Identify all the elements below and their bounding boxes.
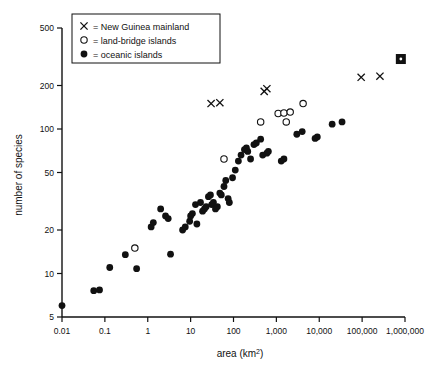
y-tick-label: 10 <box>45 269 55 279</box>
point-oceanic-island <box>193 221 200 228</box>
point-new-guinea-whole-island <box>396 54 406 64</box>
point-oceanic-island <box>214 203 221 210</box>
series-new-guinea-mainland <box>207 73 383 108</box>
legend-item-filled: = oceanic islands <box>81 50 163 60</box>
x-tick-label: 10,000 <box>306 326 332 336</box>
point-oceanic-island <box>281 156 288 163</box>
point-oceanic-island <box>221 183 228 190</box>
point-oceanic-island <box>167 251 174 258</box>
point-land-bridge-island <box>300 100 306 106</box>
point-oceanic-island <box>189 210 196 217</box>
point-oceanic-island <box>106 264 113 271</box>
x-axis: 0.010.11101001,00010,000100,0001,000,000 <box>54 317 424 336</box>
y-tick-label: 20 <box>45 225 55 235</box>
point-oceanic-island <box>90 287 97 294</box>
legend-label: = oceanic islands <box>93 50 163 60</box>
series-land-bridge-islands <box>132 100 307 251</box>
x-axis-title: area (km2) <box>217 348 264 360</box>
series-oceanic-islands <box>59 118 346 308</box>
point-oceanic-island <box>218 191 225 198</box>
x-tick-label: 1,000,000 <box>386 326 424 336</box>
point-new-guinea-mainland <box>263 85 270 92</box>
point-oceanic-island <box>96 287 103 294</box>
point-oceanic-island <box>339 118 346 125</box>
point-oceanic-island <box>257 136 264 143</box>
point-oceanic-island <box>226 199 233 206</box>
x-tick-label: 100,000 <box>347 326 378 336</box>
point-oceanic-island <box>165 215 172 222</box>
point-oceanic-island <box>299 128 306 135</box>
x-tick-label: 0.01 <box>54 326 71 336</box>
y-axis: 5102050100200500 <box>40 23 62 322</box>
point-oceanic-island <box>150 219 157 226</box>
x-axis-title-close: ) <box>260 348 263 359</box>
point-land-bridge-island <box>283 119 289 125</box>
x-tick-label: 10 <box>186 326 196 336</box>
point-oceanic-island <box>247 156 254 163</box>
point-oceanic-island <box>314 134 321 141</box>
x-tick-label: 100 <box>226 326 240 336</box>
point-land-bridge-island <box>132 245 138 251</box>
point-oceanic-island <box>197 199 204 206</box>
series-new-guinea-mainland-whole-island <box>396 54 406 64</box>
point-oceanic-island <box>329 121 336 128</box>
chart-canvas: = New Guinea mainland= land-bridge islan… <box>0 0 425 369</box>
point-oceanic-island <box>222 177 229 184</box>
y-tick-label: 500 <box>40 23 54 33</box>
point-oceanic-island <box>182 224 189 231</box>
point-new-guinea-mainland <box>376 73 383 80</box>
y-tick-label: 200 <box>40 81 54 91</box>
point-oceanic-island <box>157 205 164 212</box>
x-tick-label: 1,000 <box>266 326 288 336</box>
point-oceanic-island <box>232 167 239 174</box>
y-tick-label: 50 <box>45 168 55 178</box>
legend-item-x: = New Guinea mainland <box>80 22 189 32</box>
legend-label: = New Guinea mainland <box>93 22 189 32</box>
legend-marker-filled <box>81 51 88 58</box>
x-axis-title-base: area (km <box>217 348 256 359</box>
point-land-bridge-island <box>257 119 263 125</box>
point-oceanic-island <box>229 174 236 181</box>
point-land-bridge-island <box>287 109 293 115</box>
data-points <box>59 54 406 309</box>
x-tick-label: 1 <box>145 326 150 336</box>
point-new-guinea-mainland <box>216 99 223 106</box>
point-land-bridge-island <box>281 110 287 116</box>
square-center-dot <box>399 58 402 61</box>
point-oceanic-island <box>133 265 140 272</box>
point-oceanic-island <box>59 302 66 309</box>
x-tick-label: 0.1 <box>99 326 111 336</box>
legend-marker-o <box>81 37 87 43</box>
y-tick-label: 5 <box>49 312 54 322</box>
species-area-chart: = New Guinea mainland= land-bridge islan… <box>0 0 425 369</box>
point-new-guinea-mainland <box>207 100 214 107</box>
y-tick-label: 100 <box>40 124 54 134</box>
point-oceanic-island <box>265 148 272 155</box>
point-oceanic-island <box>207 191 214 198</box>
point-oceanic-island <box>122 251 129 258</box>
y-axis-title: number of species <box>13 134 24 216</box>
point-oceanic-island <box>235 158 242 165</box>
point-new-guinea-mainland <box>358 74 365 81</box>
legend-item-o: = land-bridge islands <box>81 36 177 46</box>
point-oceanic-island <box>244 148 251 155</box>
legend-label: = land-bridge islands <box>93 36 177 46</box>
point-land-bridge-island <box>221 156 227 162</box>
legend: = New Guinea mainland= land-bridge islan… <box>72 14 220 63</box>
